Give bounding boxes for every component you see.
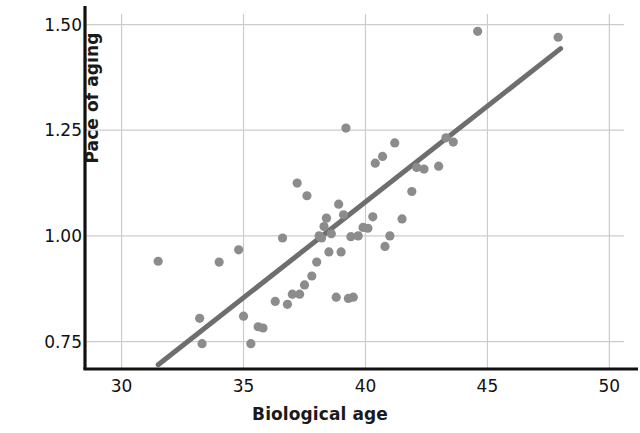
x-axis-tick-labels: 3035404550 (0, 366, 640, 396)
data-point (378, 152, 387, 161)
trend-line (158, 49, 560, 365)
x-tick-label: 35 (214, 376, 274, 396)
gridlines (85, 14, 624, 369)
data-point (215, 257, 224, 266)
data-point (397, 214, 406, 223)
data-point (197, 339, 206, 348)
data-point (349, 293, 358, 302)
y-tick-label: 1.25 (26, 120, 82, 140)
x-tick-label: 45 (457, 376, 517, 396)
data-point (195, 314, 204, 323)
data-point (380, 242, 389, 251)
data-point (271, 297, 280, 306)
y-tick-label: 1.00 (26, 226, 82, 246)
data-point (322, 214, 331, 223)
data-point (154, 257, 163, 266)
data-point (302, 191, 311, 200)
data-point (419, 165, 428, 174)
data-point (341, 124, 350, 133)
axis-lines (83, 6, 638, 369)
x-tick-label: 30 (92, 376, 152, 396)
data-point (278, 233, 287, 242)
data-point (339, 210, 348, 219)
data-point (300, 280, 309, 289)
data-point (258, 323, 267, 332)
y-axis-label: Pace of aging (82, 0, 102, 198)
data-point (354, 231, 363, 240)
data-point (319, 222, 328, 231)
data-point (371, 159, 380, 168)
data-point (368, 212, 377, 221)
data-point (283, 300, 292, 309)
scatter-plot-figure: Pace of aging Biological age 0.751.001.2… (0, 0, 640, 433)
data-point (385, 231, 394, 240)
data-points (154, 27, 563, 349)
data-point (434, 162, 443, 171)
data-point (324, 247, 333, 256)
x-tick-label: 40 (335, 376, 395, 396)
data-point (332, 293, 341, 302)
data-point (449, 137, 458, 146)
data-point (293, 178, 302, 187)
data-point (473, 27, 482, 36)
data-point (312, 257, 321, 266)
y-tick-label: 1.50 (26, 15, 82, 35)
data-point (307, 271, 316, 280)
data-point (317, 233, 326, 242)
data-point (234, 245, 243, 254)
x-axis-label: Biological age (0, 404, 640, 424)
data-point (334, 200, 343, 209)
data-point (246, 339, 255, 348)
y-tick-label: 0.75 (26, 332, 82, 352)
data-point (239, 312, 248, 321)
data-point (390, 138, 399, 147)
x-tick-label: 50 (579, 376, 639, 396)
data-point (295, 290, 304, 299)
data-point (327, 229, 336, 238)
data-point (363, 224, 372, 233)
data-point (554, 33, 563, 42)
data-point (336, 247, 345, 256)
regression-line (158, 49, 560, 365)
data-point (407, 187, 416, 196)
